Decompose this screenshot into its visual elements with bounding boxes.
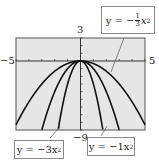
label-box-1x: y = −1x2 — [87, 137, 135, 156]
xmin-label: −5 — [0, 56, 15, 66]
label-box-third: y = − 1 3 x2 — [101, 6, 155, 34]
label-sup: 2 — [147, 17, 151, 24]
label-text: y = −1x — [89, 141, 130, 152]
xmax-label: 5 — [149, 56, 155, 66]
label-box-3x: y = −3x2 — [14, 140, 64, 159]
ymax-label: 3 — [77, 25, 83, 35]
ymin-label: −9 — [73, 133, 88, 143]
label-text: y = − — [106, 15, 135, 26]
label-sup: 2 — [57, 146, 61, 153]
label-text: y = −3x — [17, 144, 58, 155]
fraction-denominator: 3 — [135, 21, 139, 28]
fraction: 1 3 — [135, 13, 139, 28]
label-sup: 2 — [129, 143, 133, 150]
